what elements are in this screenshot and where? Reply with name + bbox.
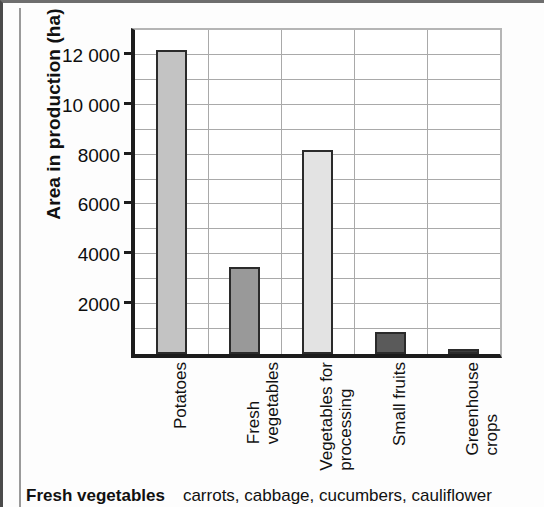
figure-screenshot: Area in production (ha) 2000400060008000… — [0, 0, 544, 507]
x-label-line: processing — [336, 362, 355, 471]
x-label-line: Potatoes — [171, 362, 190, 429]
y-tick-label: 8000 — [78, 145, 120, 167]
bar-vegetables-for-processing — [302, 150, 333, 354]
bar-fresh-vegetables — [229, 267, 260, 354]
x-label-fresh-vegetables: Freshvegetables — [208, 362, 280, 470]
y-tick-mark — [124, 301, 131, 304]
y-tick-mark — [124, 251, 131, 254]
y-tick-label: 4000 — [78, 244, 120, 266]
caption-definition: carrots, cabbage, cucumbers, cauliflower — [183, 486, 492, 505]
caption-term: Fresh vegetables — [26, 486, 165, 505]
x-label-vegetables-for-processing: Vegetables forprocessing — [281, 362, 353, 470]
y-tick-mark — [124, 102, 131, 105]
x-label-line: vegetables — [263, 362, 282, 444]
y-tick-label: 2000 — [78, 294, 120, 316]
y-tick-mark — [124, 201, 131, 204]
gridline-vertical — [427, 30, 428, 354]
gridline-horizontal — [135, 104, 500, 105]
y-tick-label: 6000 — [78, 194, 120, 216]
gridline-vertical — [208, 30, 209, 354]
x-label-small-fruits: Small fruits — [354, 362, 426, 470]
y-tick-mark — [124, 52, 131, 55]
gridline-horizontal — [135, 79, 500, 80]
y-tick-label: 12 000 — [62, 45, 120, 67]
plot-area — [131, 28, 502, 358]
figure-caption: Fresh vegetablescarrots, cabbage, cucumb… — [26, 486, 538, 506]
y-tick-mark — [124, 152, 131, 155]
bar-potatoes — [156, 50, 187, 354]
x-label-line: Vegetables for — [317, 362, 336, 471]
x-label-line: Greenhouse — [463, 362, 482, 456]
x-axis-category-labels: PotatoesFreshvegetablesVegetables forpro… — [131, 362, 502, 472]
bar-greenhouse-crops — [448, 349, 479, 354]
x-label-line: crops — [482, 362, 501, 456]
gridline-horizontal — [135, 54, 500, 55]
x-label-line: Fresh — [244, 401, 263, 444]
x-label-line: Small fruits — [390, 362, 409, 446]
y-axis-tick-labels: 200040006000800010 00012 000 — [0, 28, 126, 358]
gridline-horizontal — [135, 129, 500, 130]
gridline-vertical — [354, 30, 355, 354]
y-tick-label: 10 000 — [62, 95, 120, 117]
x-label-greenhouse-crops: Greenhousecrops — [427, 362, 499, 470]
bar-small-fruits — [375, 332, 406, 354]
gridline-vertical — [281, 30, 282, 354]
x-label-potatoes: Potatoes — [135, 362, 207, 470]
